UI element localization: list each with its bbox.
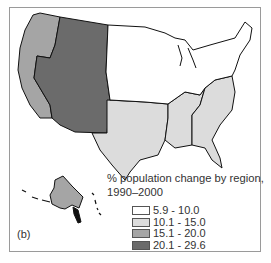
legend-title-line1: % population change by region,: [107, 172, 264, 186]
legend-item: 5.9 - 10.0: [132, 205, 206, 217]
legend-swatch-5.9-10.0: [132, 206, 150, 215]
legend-title-line2: 1990–2000: [107, 186, 264, 200]
legend-label: 15.1 - 20.0: [153, 228, 206, 239]
legend: 5.9 - 10.0 10.1 - 15.0 15.1 - 20.0 20.1 …: [132, 205, 206, 251]
legend-label: 10.1 - 15.0: [153, 217, 206, 228]
alaska-panhandle: [73, 207, 81, 223]
legend-swatch-20.1-29.6: [132, 241, 150, 250]
aleutian-islands: [22, 190, 50, 202]
region-alaska: [50, 176, 83, 209]
legend-item: 20.1 - 29.6: [132, 240, 206, 252]
legend-label: 5.9 - 10.0: [153, 205, 199, 216]
legend-swatch-10.1-15.0: [132, 218, 150, 227]
panel-label: (b): [17, 228, 30, 240]
legend-label: 20.1 - 29.6: [153, 240, 206, 251]
legend-item: 15.1 - 20.0: [132, 228, 206, 240]
legend-swatch-15.1-20.0: [132, 229, 150, 238]
legend-title: % population change by region, 1990–2000: [107, 172, 264, 199]
hawaii: [92, 193, 101, 215]
